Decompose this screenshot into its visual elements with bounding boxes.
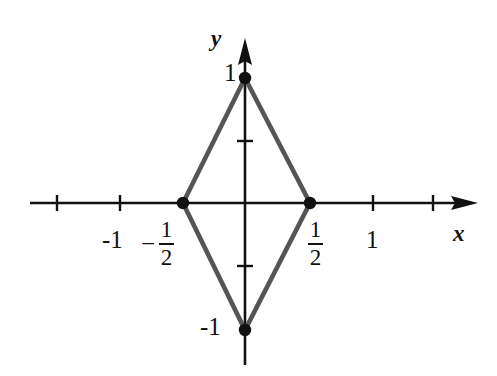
fraction-stack-neg-half: 1 2 <box>159 218 174 270</box>
fraction-denominator-neg-half: 2 <box>160 246 174 270</box>
y-axis-label: y <box>211 27 221 50</box>
x-axis-label: x <box>453 222 465 245</box>
y-tick-label-neg-1: -1 <box>200 314 221 339</box>
minus-sign-neg-half: − <box>141 231 155 256</box>
y-axis-arrowhead <box>238 38 252 65</box>
y-tick-label-1: 1 <box>224 60 237 85</box>
vertex-point-right <box>304 197 316 209</box>
x-tick-label-one-half: 1 2 <box>308 218 323 270</box>
fraction-numerator-neg-half: 1 <box>160 218 174 242</box>
graph-figure: y x 1 -1 -1 1 − 1 2 1 2 <box>0 0 497 376</box>
vertex-point-left <box>177 197 189 209</box>
x-tick-label-neg-1: -1 <box>102 227 123 252</box>
coordinate-plane-svg <box>0 0 497 376</box>
x-axis-arrowhead <box>451 196 478 210</box>
x-tick-label-pos-1: 1 <box>366 227 379 252</box>
x-tick-label-neg-one-half: − 1 2 <box>141 218 174 270</box>
fraction-denominator-half: 2 <box>309 246 323 270</box>
fraction-numerator-half: 1 <box>309 218 323 242</box>
vertex-point-bottom <box>239 324 251 336</box>
vertex-point-top <box>239 72 251 84</box>
fraction-stack-half: 1 2 <box>308 218 323 270</box>
